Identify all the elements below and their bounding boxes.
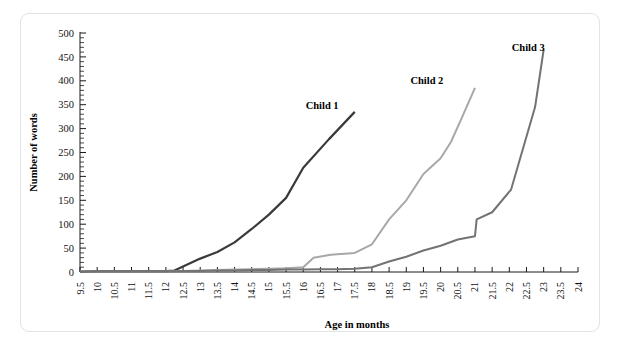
y-tick-label: 300 <box>58 123 74 134</box>
x-tick-label: 19 <box>401 282 412 292</box>
x-tick-label: 21 <box>469 282 480 292</box>
y-tick-label: 350 <box>58 99 74 110</box>
series-line-3 <box>80 50 544 272</box>
line-chart: 0501001502002503003504004505009.51010.51… <box>0 0 619 346</box>
x-tick-label: 13.5 <box>212 282 223 300</box>
series-line-1 <box>80 112 355 272</box>
x-tick-label: 11 <box>126 282 137 292</box>
x-tick-label: 18.5 <box>384 282 395 300</box>
x-tick-label: 11.5 <box>143 282 154 299</box>
x-tick-label: 23.5 <box>555 282 566 300</box>
x-tick-label: 12.5 <box>178 282 189 300</box>
x-tick-label: 14.5 <box>246 282 257 300</box>
x-tick-label: 17 <box>332 282 343 292</box>
x-tick-label: 24 <box>573 282 584 292</box>
x-tick-label: 16.5 <box>315 282 326 300</box>
series-label-1: Child 1 <box>306 100 339 111</box>
chart-figure: 0501001502002503003504004505009.51010.51… <box>0 0 619 346</box>
x-tick-label: 12 <box>160 282 171 292</box>
x-tick-label: 16 <box>298 282 309 292</box>
y-tick-label: 200 <box>58 171 74 182</box>
x-tick-label: 23 <box>538 282 549 292</box>
x-tick-label: 13 <box>195 282 206 292</box>
x-tick-label: 20 <box>435 282 446 292</box>
y-tick-label: 400 <box>58 75 74 86</box>
y-tick-label: 0 <box>69 267 74 278</box>
x-tick-label: 15 <box>263 282 274 292</box>
y-axis-title: Number of words <box>28 113 39 192</box>
x-tick-label: 22 <box>504 282 515 292</box>
x-tick-label: 21.5 <box>487 282 498 300</box>
x-tick-label: 9.5 <box>75 282 86 295</box>
x-tick-label: 15.5 <box>281 282 292 300</box>
x-tick-label: 20.5 <box>452 282 463 300</box>
series-line-2 <box>80 88 475 272</box>
x-tick-label: 10 <box>92 282 103 292</box>
y-tick-label: 100 <box>58 219 74 230</box>
x-tick-label: 18 <box>366 282 377 292</box>
x-tick-label: 10.5 <box>109 282 120 300</box>
x-tick-label: 19.5 <box>418 282 429 300</box>
x-tick-label: 14 <box>229 282 240 292</box>
x-axis-title: Age in months <box>325 319 390 330</box>
y-tick-label: 50 <box>64 243 75 254</box>
y-tick-label: 450 <box>58 52 74 63</box>
y-tick-label: 250 <box>58 147 74 158</box>
y-tick-label: 150 <box>58 195 74 206</box>
series-label-2: Child 2 <box>410 75 443 86</box>
y-tick-label: 500 <box>58 28 74 39</box>
x-tick-label: 17.5 <box>349 282 360 300</box>
series-label-3: Child 3 <box>512 42 545 53</box>
x-tick-label: 22.5 <box>521 282 532 300</box>
